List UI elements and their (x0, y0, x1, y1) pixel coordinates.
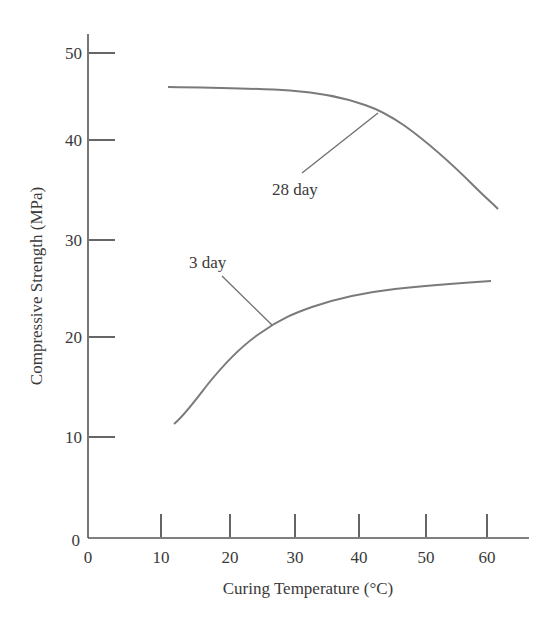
x-axis-title: Curing Temperature (°C) (223, 579, 394, 598)
x-tick-label: 20 (222, 548, 239, 567)
y-tick-label: 10 (65, 428, 82, 447)
y-tick-label: 0 (72, 531, 81, 550)
y-tick-labels: 50 40 30 20 10 0 (65, 44, 82, 550)
leader-28-day (302, 113, 378, 173)
y-tick-label: 50 (65, 44, 82, 63)
x-tick-label: 40 (351, 548, 368, 567)
leader-3-day (222, 276, 272, 325)
y-tick-label: 40 (65, 131, 82, 150)
y-tick-label: 30 (65, 231, 82, 250)
y-ticks (89, 53, 115, 437)
x-ticks (161, 514, 487, 537)
y-tick-label: 20 (65, 328, 82, 347)
annotation-28-day: 28 day (272, 180, 318, 199)
x-tick-labels: 0 10 20 30 40 50 60 (84, 548, 496, 567)
x-tick-label: 60 (479, 548, 496, 567)
x-tick-label: 0 (84, 548, 93, 567)
annotation-3-day: 3 day (189, 253, 227, 272)
chart-canvas: 50 40 30 20 10 0 0 10 20 30 40 50 60 Cur… (0, 0, 555, 625)
x-tick-label: 10 (153, 548, 170, 567)
x-tick-label: 30 (287, 548, 304, 567)
series-3-day-line (174, 281, 491, 424)
x-tick-label: 50 (418, 548, 435, 567)
y-axis-title: Compressive Strength (MPa) (27, 187, 46, 385)
